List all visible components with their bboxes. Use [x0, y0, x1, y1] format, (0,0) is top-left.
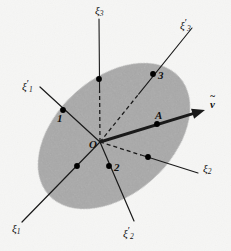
axis-label-xi2-prime: ξ′2	[123, 226, 134, 241]
point-label-3: 3	[158, 70, 164, 81]
axis-label-xi2: ξ2	[203, 163, 211, 176]
axis-label-xi3: ξ3	[95, 5, 103, 18]
point-marker-6	[74, 163, 80, 169]
vector-label-v: v	[210, 99, 215, 110]
point-label-1: 1	[57, 113, 63, 124]
point-marker-2	[106, 163, 112, 169]
point-label-2: 2	[114, 162, 120, 173]
point-marker-4	[96, 76, 102, 82]
axis-label-xi3-prime: ξ′3	[180, 18, 191, 33]
axis-label-xi1: ξ1	[12, 223, 20, 236]
point-marker-3	[150, 71, 156, 77]
vector-diagram-figure: ξ3 ξ′3 ξ′1 ξ1 ξ′2 ξ2 O v 1 2 3 A	[0, 0, 231, 251]
point-marker-A	[154, 121, 160, 127]
point-marker-5	[145, 154, 151, 160]
diagram-canvas	[0, 0, 231, 251]
origin-label: O	[89, 139, 97, 150]
point-label-A: A	[155, 110, 162, 121]
axis-label-xi1-prime: ξ′1	[22, 79, 33, 94]
